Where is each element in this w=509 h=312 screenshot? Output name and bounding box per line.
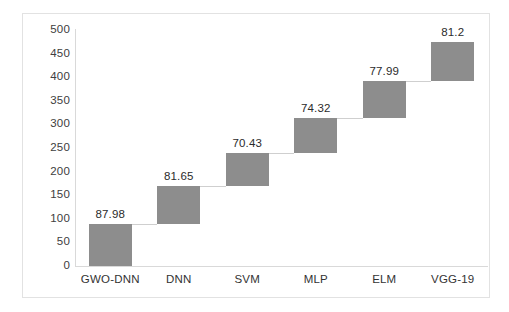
bar-vgg-19 [431, 42, 474, 80]
y-tick-label: 400 [28, 71, 70, 83]
x-tick-label-dnn: DNN [145, 274, 214, 286]
bar-gwo-dnn [89, 224, 132, 266]
plot-area: 87.9881.6570.4374.3277.9981.2 [76, 30, 487, 266]
x-tick-label-gwo-dnn: GWO-DNN [76, 274, 145, 286]
x-tick-label-svm: SVM [213, 274, 282, 286]
y-tick-label: 0 [28, 260, 70, 272]
y-tick-label: 500 [28, 24, 70, 36]
y-tick-label: 350 [28, 95, 70, 107]
bar-elm [363, 81, 406, 118]
bar-dnn [157, 186, 200, 225]
y-tick-label: 250 [28, 142, 70, 154]
bar-value-label: 74.32 [279, 103, 352, 115]
y-tick-label: 300 [28, 119, 70, 131]
y-tick-label: 150 [28, 189, 70, 201]
bar-value-label: 81.65 [142, 171, 215, 183]
y-tick-label: 200 [28, 166, 70, 178]
y-axis-tick-labels: 050100150200250300350400450500 [22, 0, 70, 312]
chart-container: 050100150200250300350400450500 87.9881.6… [0, 0, 509, 312]
waterfall-connector [337, 118, 362, 119]
bar-value-label: 77.99 [348, 66, 421, 78]
y-tick-label: 50 [28, 237, 70, 249]
bar-mlp [294, 118, 337, 153]
waterfall-connector [132, 224, 157, 225]
waterfall-connector [200, 186, 225, 187]
x-tick-label-vgg-19: VGG-19 [419, 274, 488, 286]
y-tick-label: 100 [28, 213, 70, 225]
x-axis-line [75, 266, 488, 267]
waterfall-connector [269, 153, 294, 154]
bar-value-label: 70.43 [211, 138, 284, 150]
bar-value-label: 87.98 [74, 209, 147, 221]
x-tick-label-mlp: MLP [282, 274, 351, 286]
x-tick-label-elm: ELM [350, 274, 419, 286]
bar-value-label: 81.2 [416, 27, 489, 39]
y-tick-label: 450 [28, 48, 70, 60]
bar-svm [226, 153, 269, 186]
waterfall-connector [406, 81, 431, 82]
